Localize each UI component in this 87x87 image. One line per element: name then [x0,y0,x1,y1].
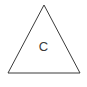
shape-label: C [0,40,87,54]
triangle-diagram: C [0,0,87,87]
